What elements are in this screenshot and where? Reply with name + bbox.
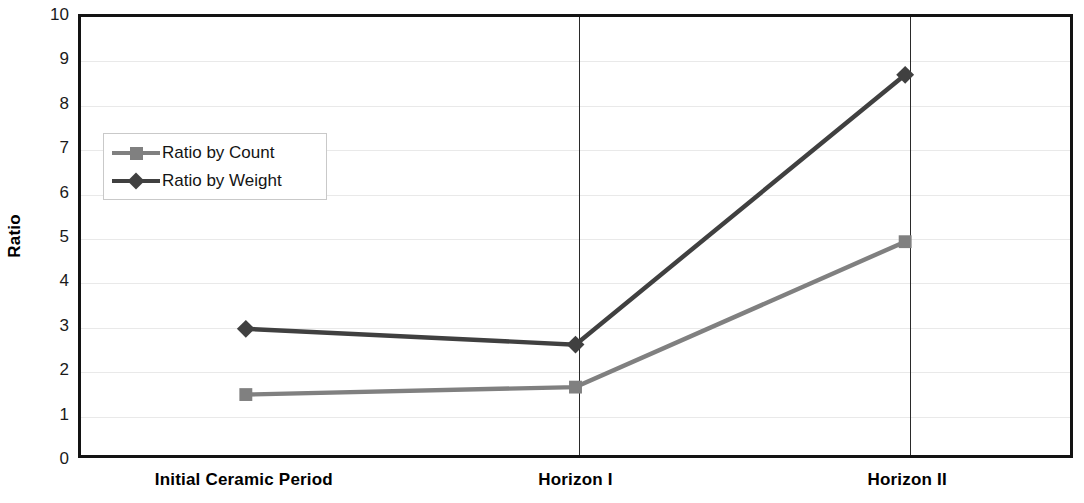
- legend-label-ratio-by-count: Ratio by Count: [160, 143, 274, 163]
- legend-swatch-square-icon: [112, 143, 160, 163]
- legend-swatch-diamond-icon: [112, 171, 160, 191]
- legend-label-ratio-by-weight: Ratio by Weight: [160, 171, 282, 191]
- plot-area: [78, 14, 1073, 458]
- series-layer: [81, 17, 1070, 455]
- legend-entry-ratio-by-count: Ratio by Count: [104, 139, 326, 167]
- ratio-line-chart: Ratio 109876543210 Ratio by Count Ratio …: [0, 0, 1084, 503]
- x-axis-category-labels: Initial Ceramic PeriodHorizon IHorizon I…: [78, 470, 1073, 500]
- y-axis-tick-label: 0: [30, 450, 78, 467]
- y-axis-tick-label: 1: [30, 405, 78, 422]
- y-axis-tick-label: 4: [30, 272, 78, 289]
- y-axis-title-text: Ratio: [5, 214, 25, 258]
- y-axis-tick-label: 9: [30, 50, 78, 67]
- data-point-square-marker: [899, 235, 912, 248]
- y-axis-tick-label: 7: [30, 139, 78, 156]
- data-point-square-marker: [569, 381, 582, 394]
- x-axis-category-label: Horizon I: [538, 470, 613, 490]
- y-axis-tick-label: 10: [30, 6, 78, 23]
- series-line-0: [246, 242, 905, 395]
- y-axis-title: Ratio: [0, 186, 30, 286]
- y-axis-tick-label: 8: [30, 94, 78, 111]
- y-axis-tick-label: 2: [30, 361, 78, 378]
- y-axis-tick-label: 5: [30, 228, 78, 245]
- y-axis-tick-labels: 109876543210: [30, 0, 78, 503]
- legend-entry-ratio-by-weight: Ratio by Weight: [104, 167, 326, 195]
- legend: Ratio by Count Ratio by Weight: [103, 133, 327, 200]
- data-point-square-marker: [239, 388, 252, 401]
- y-axis-tick-label: 6: [30, 183, 78, 200]
- y-axis-tick-label: 3: [30, 316, 78, 333]
- series-line-1: [246, 75, 905, 345]
- data-point-diamond-marker: [237, 320, 255, 338]
- x-axis-category-label: Initial Ceramic Period: [155, 470, 333, 490]
- x-axis-category-label: Horizon II: [867, 470, 946, 490]
